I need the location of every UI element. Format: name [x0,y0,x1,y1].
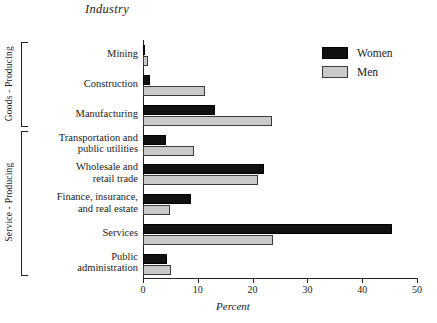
category-label-line: administration [26,262,138,274]
black-square-swatch [322,47,348,59]
bar-men-wholesale-and-retail-trade [143,175,258,185]
bar-men-mining [143,56,148,66]
x-axis-tick-label: 0 [141,284,146,295]
bar-women-transportation-and-public-utilities [143,135,166,145]
bar-women-finance-insurance-and-real-estate [143,194,191,204]
bar-men-transportation-and-public-utilities [143,146,194,156]
x-axis-tick [143,278,144,283]
bar-men-manufacturing [143,116,272,126]
x-axis-title: Percent [216,300,250,312]
category-label: Manufacturing [26,108,138,120]
bar-men-services [143,235,273,245]
category-label-line: public utilities [26,143,138,155]
bar-women-wholesale-and-retail-trade [143,164,264,174]
category-label-container: MiningConstructionManufacturingTransport… [26,40,138,278]
x-axis-tick [307,278,308,283]
category-label-line: Mining [26,48,138,60]
category-label: Publicadministration [26,251,138,274]
category-label-line: Finance, insurance, [26,191,138,203]
bar-women-manufacturing [143,105,215,115]
category-label: Transportation andpublic utilities [26,132,138,155]
category-label: Construction [26,78,138,90]
x-axis-tick-label: 40 [357,284,367,295]
x-axis-tick-label: 20 [248,284,258,295]
category-label: Mining [26,48,138,60]
x-axis-tick [417,278,418,283]
bar-men-finance-insurance-and-real-estate [143,205,170,215]
chart-title: Industry [85,2,129,17]
category-label-line: Wholesale and [26,161,138,173]
category-label-line: Services [26,227,138,239]
legend-item-label: Women [357,47,392,59]
bar-women-construction [143,75,150,85]
category-label-line: Public [26,251,138,263]
group-label: Goods - Producing [4,42,14,125]
legend-item-label: Men [357,66,378,78]
x-axis-tick [362,278,363,283]
bar-men-construction [143,86,205,96]
category-label: Finance, insurance,and real estate [26,191,138,214]
legend-item: Men [322,62,392,81]
category-label-line: retail trade [26,173,138,185]
group-label: Service - Producing [4,131,14,274]
category-label: Services [26,227,138,239]
bar-women-mining [143,45,145,55]
category-label-line: Construction [26,78,138,90]
bar-men-public-administration [143,265,171,275]
bar-women-services [143,224,392,234]
gray-square-swatch [322,66,348,78]
x-axis-tick [198,278,199,283]
x-axis-line [143,278,418,279]
chart-figure: Industry Goods - ProducingService - Prod… [0,0,437,323]
x-axis-tick [253,278,254,283]
chart-legend: WomenMen [322,43,392,81]
category-label-line: Manufacturing [26,108,138,120]
legend-item: Women [322,43,392,62]
x-axis-tick-label: 10 [193,284,203,295]
category-label: Wholesale andretail trade [26,161,138,184]
x-axis-tick-label: 50 [412,284,422,295]
bar-women-public-administration [143,254,167,264]
category-label-line: Transportation and [26,132,138,144]
category-label-line: and real estate [26,203,138,215]
x-axis-tick-label: 30 [302,284,312,295]
